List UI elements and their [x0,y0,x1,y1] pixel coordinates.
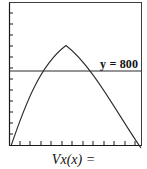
plot-area: y = 800 [0,0,147,150]
figure-caption: Vx(x) = [0,150,147,169]
axis-frame [10,3,142,146]
x-axis-ticks [20,141,135,146]
reference-line-label: y = 800 [100,57,138,72]
frame-box [10,3,142,146]
plot-svg [0,0,147,150]
figure-root: y = 800 Vx(x) = [0,0,147,169]
